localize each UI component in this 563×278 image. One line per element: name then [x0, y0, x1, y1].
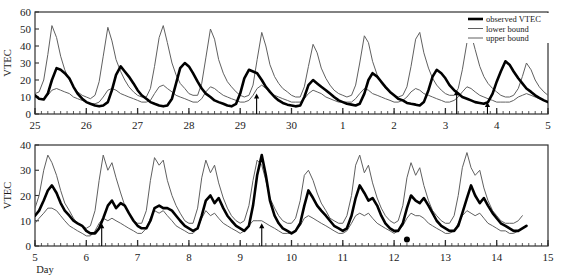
legend-label: observed VTEC [486, 14, 541, 24]
y-tick-label: 50 [20, 23, 32, 35]
x-axis-title: Day [36, 264, 54, 275]
legend-label: upper bound [486, 33, 529, 43]
x-tick-label: 30 [286, 119, 298, 131]
plot-frame [35, 145, 548, 246]
legend: observed VTEClower boundupper bound [466, 13, 558, 43]
x-tick-label: 2 [391, 119, 397, 131]
x-tick-label: 14 [491, 251, 503, 263]
chart-canvas: 010203040506025262728293012345VTEC010203… [0, 0, 563, 278]
annotation-arrow-head [254, 94, 259, 99]
vtec-figure: 010203040506025262728293012345VTEC010203… [0, 0, 563, 278]
x-tick-label: 27 [132, 119, 144, 131]
y-tick-label: 10 [20, 91, 32, 103]
x-tick-label: 10 [286, 251, 298, 263]
y-axis-title: VTEC [2, 49, 13, 76]
x-tick-label: 11 [338, 251, 349, 263]
x-tick-label: 4 [494, 119, 500, 131]
x-tick-label: 6 [84, 251, 90, 263]
series-line-observed-VTEC [35, 155, 526, 233]
y-tick-label: 0 [26, 240, 32, 252]
x-tick-label: 7 [135, 251, 141, 263]
series-group [35, 153, 526, 236]
x-tick-label: 3 [443, 119, 449, 131]
series-line-upper-bound [35, 153, 522, 229]
x-tick-label: 26 [81, 119, 93, 131]
x-tick-label: 9 [237, 251, 243, 263]
y-tick-label: 30 [20, 164, 32, 176]
y-tick-label: 60 [20, 6, 32, 18]
series-line-observed-VTEC [35, 61, 548, 106]
x-tick-label: 8 [186, 251, 192, 263]
x-tick-label: 1 [340, 119, 346, 131]
x-tick-label: 25 [30, 119, 42, 131]
panel-bottom: 01020304056789101112131415VTECDay [2, 139, 554, 275]
x-tick-label: 5 [545, 119, 551, 131]
legend-label: lower bound [486, 24, 529, 34]
x-tick-label: 28 [183, 119, 195, 131]
y-tick-label: 10 [20, 215, 32, 227]
y-tick-label: 20 [20, 190, 32, 202]
x-tick-label: 13 [440, 251, 452, 263]
y-axis-title: VTEC [2, 182, 13, 209]
x-tick-label: 5 [32, 251, 38, 263]
x-tick-label: 12 [389, 251, 400, 263]
annotation-dot [404, 236, 410, 242]
y-tick-label: 20 [20, 74, 32, 86]
y-tick-label: 40 [20, 40, 32, 52]
x-tick-label: 29 [235, 119, 247, 131]
x-tick-label: 15 [543, 251, 555, 263]
y-tick-label: 40 [20, 139, 32, 151]
y-tick-label: 30 [20, 57, 32, 69]
annotation-arrow-head [259, 223, 264, 228]
